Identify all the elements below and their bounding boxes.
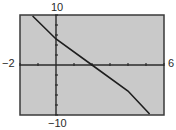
graph-screen <box>0 0 176 130</box>
